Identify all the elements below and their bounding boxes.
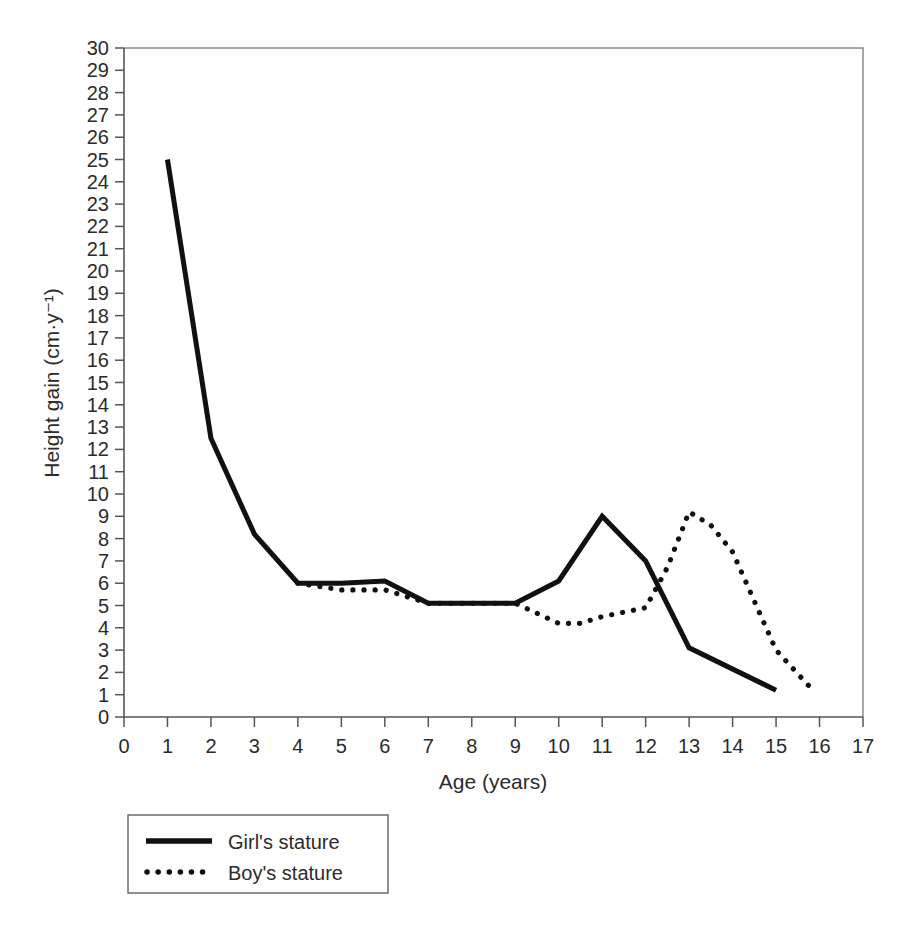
x-tick-label: 17 [852, 735, 874, 757]
y-tick-label: 3 [98, 639, 109, 661]
legend-label-girls-stature: Girl's stature [228, 831, 340, 853]
legend-label-boys-stature: Boy's stature [228, 862, 343, 884]
y-tick-label: 9 [98, 505, 109, 527]
y-tick-label: 17 [87, 327, 109, 349]
y-axis: 0123456789101112131415161718192021222324… [87, 37, 124, 728]
x-tick-label: 8 [466, 735, 477, 757]
data-series-group [167, 160, 810, 691]
y-tick-label: 12 [87, 438, 109, 460]
y-tick-label: 24 [87, 171, 109, 193]
y-tick-label: 25 [87, 149, 109, 171]
x-tick-label: 3 [249, 735, 260, 757]
x-axis: 01234567891011121314151617 [118, 717, 874, 757]
y-tick-label: 0 [98, 706, 109, 728]
y-tick-label: 6 [98, 572, 109, 594]
x-tick-label: 7 [423, 735, 434, 757]
y-tick-label: 14 [87, 394, 109, 416]
x-tick-label: 6 [379, 735, 390, 757]
y-tick-label: 4 [98, 617, 109, 639]
plot-frame [124, 48, 863, 717]
x-tick-label: 2 [205, 735, 216, 757]
x-tick-label: 16 [808, 735, 830, 757]
y-tick-label: 26 [87, 126, 109, 148]
x-axis-title: Age (years) [439, 770, 548, 793]
x-tick-label: 12 [635, 735, 657, 757]
x-tick-label: 9 [510, 735, 521, 757]
x-tick-label: 4 [292, 735, 303, 757]
y-tick-label: 5 [98, 595, 109, 617]
y-tick-label: 13 [87, 416, 109, 438]
y-tick-label: 28 [87, 82, 109, 104]
y-tick-label: 30 [87, 37, 109, 59]
y-tick-label: 15 [87, 372, 109, 394]
x-tick-label: 0 [118, 735, 129, 757]
series-girl-s-stature [167, 160, 776, 691]
figure-container: 0123456789101112131415161718192021222324… [0, 0, 906, 925]
y-axis-title: Height gain (cm·y⁻¹) [40, 288, 63, 478]
legend: Girl's stature Boy's stature [128, 815, 388, 893]
y-tick-label: 23 [87, 193, 109, 215]
y-tick-label: 20 [87, 260, 109, 282]
x-tick-label: 13 [678, 735, 700, 757]
y-tick-label: 22 [87, 215, 109, 237]
y-tick-label: 1 [98, 684, 109, 706]
y-tick-label: 2 [98, 661, 109, 683]
chart-svg: 0123456789101112131415161718192021222324… [0, 0, 906, 925]
x-tick-label: 1 [162, 735, 173, 757]
y-tick-label: 19 [87, 282, 109, 304]
y-tick-label: 10 [87, 483, 109, 505]
y-tick-label: 21 [87, 238, 109, 260]
x-tick-label: 5 [336, 735, 347, 757]
x-tick-label: 11 [592, 735, 613, 757]
y-tick-label: 8 [98, 528, 109, 550]
y-tick-label: 27 [87, 104, 109, 126]
y-tick-label: 7 [98, 550, 109, 572]
y-tick-label: 16 [87, 349, 109, 371]
y-tick-label: 18 [87, 305, 109, 327]
y-tick-label: 11 [88, 461, 109, 483]
y-tick-label: 29 [87, 59, 109, 81]
x-tick-label: 15 [765, 735, 787, 757]
x-tick-label: 14 [721, 735, 743, 757]
series-boy-s-stature [298, 512, 811, 688]
frame-top-right [124, 48, 863, 717]
x-tick-label: 10 [548, 735, 570, 757]
